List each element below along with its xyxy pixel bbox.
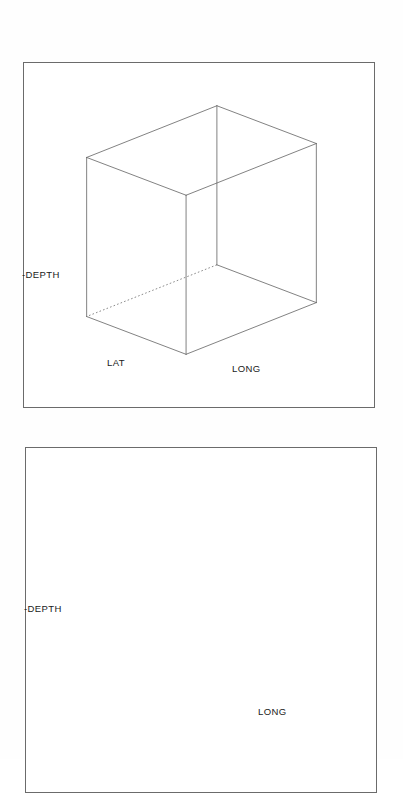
axis-label-depth-upper: -DEPTH bbox=[22, 269, 60, 280]
plot-area-lower: -DEPTH LONG bbox=[26, 448, 376, 792]
scatter-3d-lower bbox=[26, 448, 376, 792]
scatter-3d-upper bbox=[24, 63, 374, 407]
axis-label-lat-upper: LAT bbox=[107, 357, 125, 368]
panel-lower: -DEPTH LONG bbox=[25, 447, 377, 793]
axis-label-long-upper: LONG bbox=[232, 363, 261, 374]
panel-upper: -DEPTH LAT LONG bbox=[23, 62, 375, 408]
axis-label-long-lower: LONG bbox=[258, 706, 287, 717]
plot-area-upper: -DEPTH LAT LONG bbox=[24, 63, 374, 407]
axis-label-depth-lower: -DEPTH bbox=[24, 603, 62, 614]
